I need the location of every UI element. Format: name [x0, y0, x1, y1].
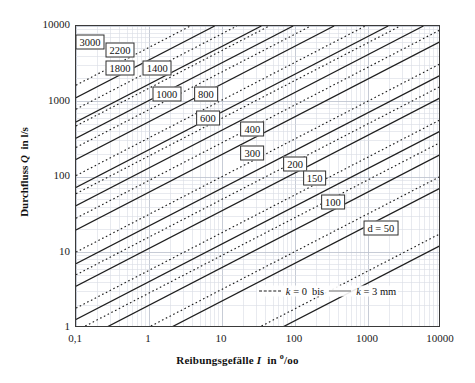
legend-dashed-symbol: k = 0 — [286, 285, 307, 296]
legend-dashed-swatch-icon — [259, 290, 281, 291]
diameter-label: 150 — [303, 170, 327, 185]
x-tick-label: 10000 — [400, 333, 475, 344]
legend-solid-symbol: k = 3 mm — [356, 285, 396, 296]
diameter-label: 100 — [321, 195, 345, 210]
legend-solid-swatch-icon — [329, 290, 351, 291]
x-tick-label: 100 — [254, 333, 334, 344]
diameter-label: 800 — [194, 87, 218, 102]
y-axis-title: Durchfluss Q in l/s — [18, 62, 30, 282]
y-axis-ticks: 110100100010000 — [5, 0, 70, 383]
diameter-label: 1000 — [152, 87, 181, 102]
diameter-label: 1400 — [143, 61, 172, 76]
diameter-label: 300 — [240, 146, 264, 161]
x-tick-label: 1000 — [327, 333, 407, 344]
x-axis-ticks: 0,1110100100010000 — [0, 333, 475, 349]
diameter-label: d = 50 — [363, 221, 398, 236]
chart-legend: k = 0 bis k = 3 mm — [257, 285, 398, 296]
x-tick-label: 0,1 — [35, 333, 115, 344]
x-tick-label: 10 — [181, 333, 261, 344]
y-tick-label: 10000 — [10, 19, 70, 30]
x-axis-title: Reibungsgefälle I in o/oo — [0, 352, 475, 366]
chart-root: 110100100010000 300022001800140010008006… — [0, 0, 475, 383]
legend-connector: bis — [312, 285, 324, 296]
diameter-label: 3000 — [75, 35, 104, 50]
diameter-label: 1800 — [105, 61, 134, 76]
diameter-label: 400 — [240, 122, 264, 137]
y-tick-label: 1 — [10, 321, 70, 332]
diameter-label: 2200 — [105, 43, 134, 58]
x-tick-label: 1 — [108, 333, 188, 344]
diameter-label: 600 — [196, 110, 220, 125]
plot-area: 3000220018001400100080060040030020015010… — [75, 25, 440, 327]
